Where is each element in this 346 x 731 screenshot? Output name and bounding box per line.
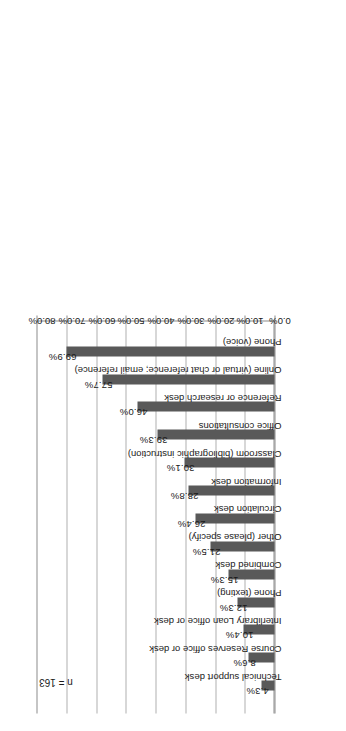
- category-axis-label: Office consultations: [198, 420, 281, 431]
- value-axis-tick-label: 80.0%: [28, 310, 55, 321]
- bar-value-label: 15.3%: [211, 574, 239, 585]
- tick-label-text: 30.0%: [177, 315, 204, 326]
- category-axis-label: Classroom (bibliographic instruction): [127, 448, 281, 459]
- bar-value-label: 21.5%: [192, 546, 220, 557]
- bar-value-label: 39.3%: [139, 434, 167, 445]
- bar-value-label: 46.0%: [119, 406, 147, 417]
- tick-label-text: 50.0%: [117, 315, 144, 326]
- bar-value-label: 8.6%: [233, 657, 255, 668]
- tick-label-text: 10.0%: [236, 315, 263, 326]
- category-axis-label: Online (virtual or chat reference; email…: [74, 364, 281, 375]
- sample-size-annotation: n = 163: [39, 677, 73, 688]
- value-axis-tick-label: 60.0%: [88, 310, 115, 321]
- value-axis-tick-label: 20.0%: [207, 310, 234, 321]
- bar-chart: 4.3%8.6%10.4%12.3%15.3%21.5%26.4%28.8%30…: [0, 0, 346, 731]
- category-axis-label: Other (please specify): [188, 531, 281, 542]
- category-axis-label: Phone (texting): [217, 587, 281, 598]
- bar-value-label: 4.3%: [246, 685, 268, 696]
- value-axis-tick-label: 40.0%: [147, 310, 174, 321]
- bar-value-label: 12.3%: [219, 602, 247, 613]
- figure-rotator: 4.3%8.6%10.4%12.3%15.3%21.5%26.4%28.8%30…: [0, 0, 346, 731]
- bar-value-label: 10.4%: [225, 629, 253, 640]
- bar-value-label: 57.7%: [84, 379, 112, 390]
- category-axis-label: Phone (voice): [222, 336, 281, 347]
- value-axis-tick-label: 50.0%: [117, 310, 144, 321]
- bar-value-label: 69.9%: [48, 351, 76, 362]
- value-axis-tick-label: 0.0%: [269, 310, 291, 321]
- tick-label-text: 70.0%: [58, 315, 85, 326]
- bar-value-label: 30.1%: [166, 462, 194, 473]
- tick-label-text: 20.0%: [207, 315, 234, 326]
- category-axis-label: Interlibrary Loan office or desk: [153, 615, 281, 626]
- category-axis-label: Combined desk: [215, 559, 281, 570]
- category-axis-label: Technical support desk: [184, 671, 281, 682]
- value-axis-tick-label: 10.0%: [236, 310, 263, 321]
- tick-label-text: 80.0%: [28, 315, 55, 326]
- value-axis-tick-label: 70.0%: [58, 310, 85, 321]
- bar-value-label: 28.8%: [170, 490, 198, 501]
- figure-frame: 4.3%8.6%10.4%12.3%15.3%21.5%26.4%28.8%30…: [0, 0, 346, 731]
- tick-label-text: 40.0%: [147, 315, 174, 326]
- category-axis-label: Information desk: [211, 476, 281, 487]
- category-axis-label: Reference or research desk: [164, 392, 281, 403]
- tick-label-text: 0.0%: [269, 315, 291, 326]
- category-axis-label: Circulation desk: [213, 503, 281, 514]
- bar-value-label: 26.4%: [178, 518, 206, 529]
- tick-label-text: 60.0%: [88, 315, 115, 326]
- value-axis-tick-label: 30.0%: [177, 310, 204, 321]
- category-axis-label: Course Reserves office or desk: [149, 643, 281, 654]
